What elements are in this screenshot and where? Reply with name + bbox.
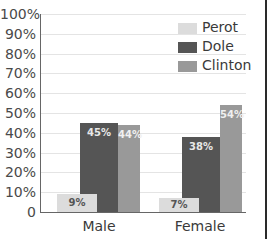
bar-female-clinton: 54% <box>220 105 242 212</box>
ytick-0: 0 <box>0 205 36 219</box>
ytick-80: 80% <box>0 47 36 61</box>
bar-label-male-clinton: 44% <box>118 129 140 141</box>
legend-label-perot: Perot <box>202 19 238 35</box>
ytick-10: 10% <box>0 185 36 199</box>
bar-label-male-dole: 45% <box>80 127 118 139</box>
bar-label-female-perot: 7% <box>159 199 199 211</box>
ytick-50: 50% <box>0 106 36 120</box>
gridline-80 <box>41 54 246 55</box>
gridline-100 <box>41 14 246 15</box>
ytick-90: 90% <box>0 27 36 41</box>
legend-swatch-perot <box>178 23 197 34</box>
gridline-70 <box>41 73 246 74</box>
xlabel-female: Female <box>160 218 240 234</box>
x-axis <box>40 212 246 213</box>
bar-label-female-dole: 38% <box>182 141 220 153</box>
bar-female-perot: 7% <box>159 198 199 212</box>
legend-label-dole: Dole <box>202 38 234 54</box>
chart-frame: 100% 90% 80% 70% 60% 50% 40% 30% 20% 10%… <box>0 0 269 239</box>
ytick-70: 70% <box>0 66 36 80</box>
bar-label-male-perot: 9% <box>57 197 97 209</box>
gridline-40 <box>41 133 246 134</box>
bar-label-female-clinton: 54% <box>220 109 242 121</box>
legend-label-clinton: Clinton <box>202 57 251 73</box>
ytick-100: 100% <box>0 7 36 21</box>
ytick-30: 30% <box>0 146 36 160</box>
ytick-60: 60% <box>0 86 36 100</box>
bar-male-perot: 9% <box>57 194 97 212</box>
gridline-60 <box>41 93 246 94</box>
xlabel-male: Male <box>59 218 139 234</box>
legend-swatch-clinton <box>178 61 197 72</box>
ytick-20: 20% <box>0 165 36 179</box>
gridline-50 <box>41 113 246 114</box>
y-axis <box>40 14 41 212</box>
legend-swatch-dole <box>178 42 197 53</box>
bar-male-clinton: 44% <box>118 125 140 212</box>
frame-right-border <box>265 0 267 239</box>
ytick-40: 40% <box>0 126 36 140</box>
